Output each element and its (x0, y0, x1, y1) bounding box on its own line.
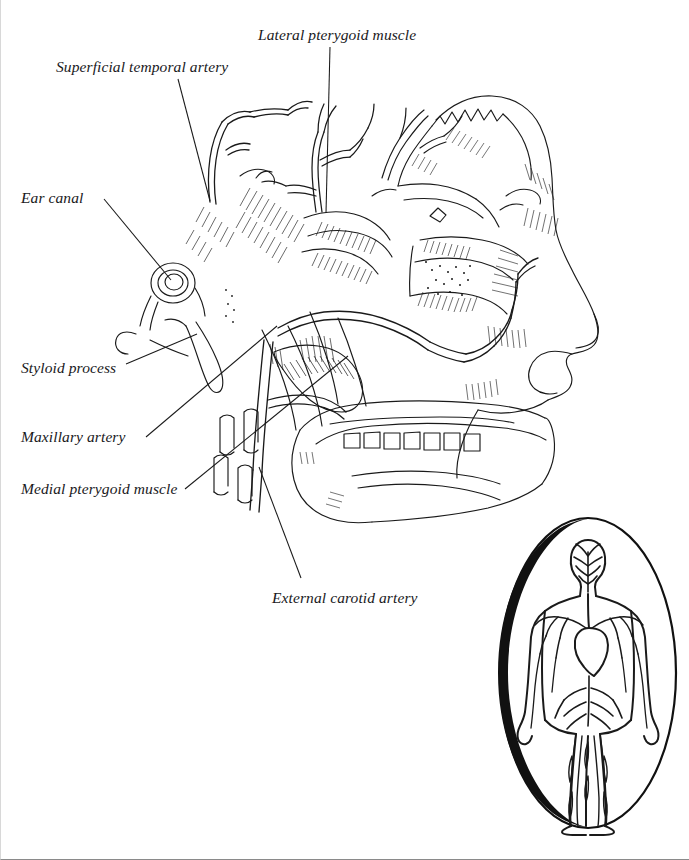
leg-vessels (569, 734, 607, 826)
label-styloid-process: Styloid process (21, 359, 116, 377)
cranial-vessels (574, 544, 602, 592)
illustration-page: Superficial temporal artery Lateral pter… (0, 0, 689, 860)
abdominal-vessels (555, 676, 622, 729)
label-maxillary-artery: Maxillary artery (21, 428, 125, 446)
label-ear-canal: Ear canal (21, 189, 83, 207)
label-medial-pterygoid-muscle: Medial pterygoid muscle (21, 480, 177, 498)
label-external-carotid-artery: External carotid artery (272, 589, 418, 607)
label-superficial-temporal-artery: Superficial temporal artery (56, 58, 228, 76)
label-lateral-pterygoid-muscle: Lateral pterygoid muscle (258, 26, 416, 44)
